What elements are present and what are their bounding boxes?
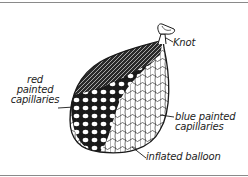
label-red-painted-capillaries: red painted capillaries <box>4 75 66 105</box>
label-blue-line-2: capillaries <box>175 122 235 132</box>
label-red-line-3: capillaries <box>4 95 66 105</box>
label-blue-painted-capillaries: blue painted capillaries <box>175 112 235 132</box>
label-knot: Knot <box>173 38 195 48</box>
label-inflated-balloon: inflated balloon <box>146 152 221 162</box>
bottom-border-rule <box>0 175 248 176</box>
balloon-body <box>60 35 180 160</box>
knot-leader-line <box>166 38 173 42</box>
